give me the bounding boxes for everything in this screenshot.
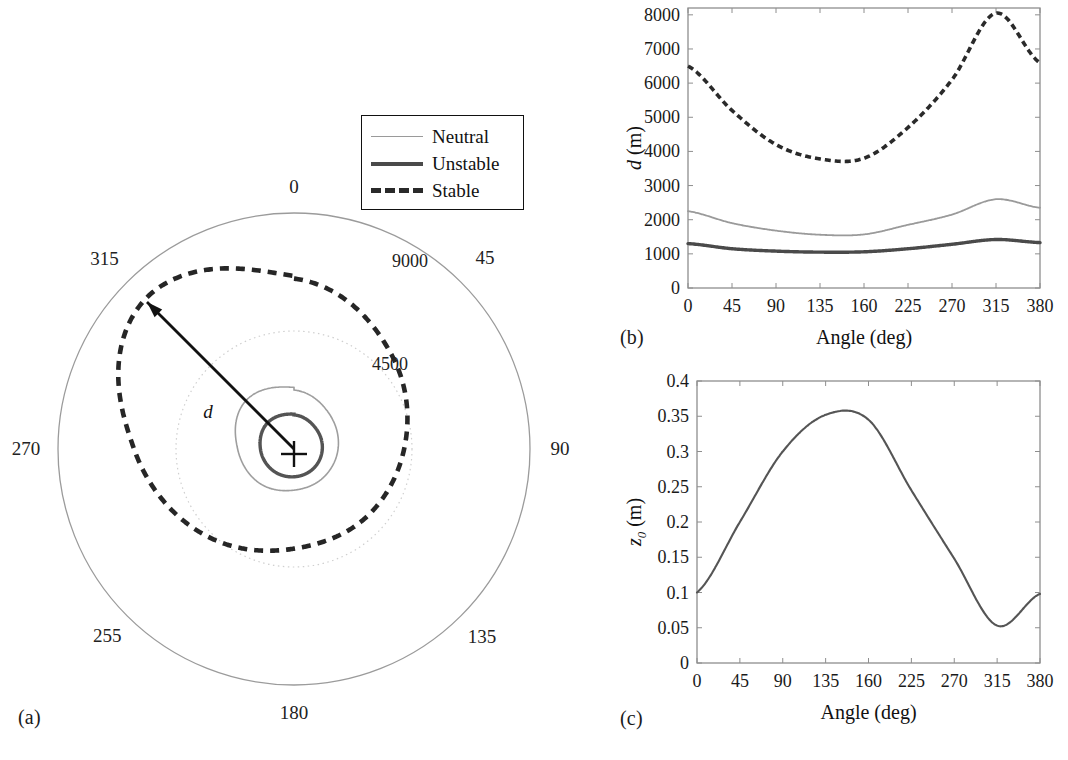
legend-swatch-unstable-icon [371, 158, 423, 170]
xtick-label: 225 [895, 296, 922, 317]
figure-root: (a) 0459013518025527031545009000d Neutra… [0, 0, 1068, 760]
ytick-label: 0 [680, 653, 689, 674]
ytick-label: 4000 [644, 141, 680, 162]
xtick-label: 315 [983, 296, 1010, 317]
legend-item-unstable: Unstable [371, 150, 514, 177]
ytick-label: 0.2 [667, 512, 690, 533]
xtick-label: 45 [731, 671, 749, 692]
polar-angle-label-315: 315 [90, 248, 119, 270]
ytick-label: 2000 [644, 209, 680, 230]
polar-radial-label-9000: 9000 [392, 251, 428, 272]
polar-angle-label-255: 255 [93, 625, 122, 647]
polar-radial-label-4500: 4500 [372, 354, 408, 375]
polar-curve-stable [118, 268, 407, 550]
xaxis-title: Angle (deg) [820, 701, 916, 724]
ytick-label: 0.4 [667, 371, 690, 392]
polar-distance-arrow [147, 302, 294, 449]
plot-frame [688, 8, 1040, 288]
xtick-label: 380 [1027, 296, 1054, 317]
ytick-label: 3000 [644, 175, 680, 196]
xtick-label: 90 [767, 296, 785, 317]
ytick-label: 6000 [644, 73, 680, 94]
xtick-label: 0 [693, 671, 702, 692]
xtick-label: 45 [723, 296, 741, 317]
legend-item-stable: Stable [371, 177, 514, 204]
yaxis-title: d (m) [623, 126, 646, 170]
xtick-label: 135 [807, 296, 834, 317]
panel-label-c: (c) [620, 707, 643, 730]
ytick-label: 1000 [644, 243, 680, 264]
series-line-stable [688, 13, 1040, 161]
polar-angle-label-270: 270 [12, 438, 41, 460]
xtick-label: 135 [812, 671, 839, 692]
polar-angle-label-135: 135 [468, 626, 497, 648]
polar-angle-label-90: 90 [551, 438, 570, 460]
legend-label-unstable: Unstable [432, 154, 500, 173]
xtick-label: 160 [851, 296, 878, 317]
panel-a-polar-plot: (a) 0459013518025527031545009000d [0, 0, 620, 760]
legend-swatch-neutral-icon [371, 131, 423, 143]
polar-angle-label-45: 45 [475, 247, 494, 269]
ytick-label: 5000 [644, 107, 680, 128]
xaxis-title: Angle (deg) [816, 326, 912, 349]
legend-label-stable: Stable [432, 181, 480, 200]
legend-box: Neutral Unstable Stable [361, 115, 524, 210]
xtick-label: 270 [941, 671, 968, 692]
ytick-label: 0 [671, 278, 680, 299]
panel-b-line-chart: (b) 010002000300040005000600070008000045… [620, 0, 1068, 370]
legend-swatch-stable-icon [371, 185, 423, 197]
xtick-label: 160 [855, 671, 882, 692]
ytick-label: 0.05 [658, 617, 690, 638]
xtick-label: 225 [898, 671, 925, 692]
ytick-label: 7000 [644, 38, 680, 59]
ytick-label: 0.35 [658, 406, 690, 427]
ytick-label: 0.25 [658, 476, 690, 497]
polar-angle-label-0: 0 [289, 176, 299, 198]
legend-item-neutral: Neutral [371, 123, 514, 150]
panel-label-b: (b) [620, 326, 644, 349]
polar-angle-label-180: 180 [280, 702, 309, 724]
yaxis-title: z0 (m) [623, 498, 650, 546]
series-line-neutral [688, 199, 1040, 235]
ytick-label: 0.15 [658, 547, 690, 568]
xtick-label: 315 [984, 671, 1011, 692]
polar-center-marker [281, 441, 307, 467]
ytick-label: 0.1 [667, 582, 690, 603]
panel-label-a: (a) [18, 706, 41, 729]
series-line-unstable [688, 239, 1040, 252]
legend-label-neutral: Neutral [432, 127, 489, 146]
series-line-z0 [697, 411, 1040, 627]
ytick-label: 0.3 [667, 441, 690, 462]
xtick-label: 90 [774, 671, 792, 692]
xtick-label: 380 [1027, 671, 1054, 692]
axis-ticks [697, 381, 1040, 663]
ytick-label: 8000 [644, 4, 680, 25]
panel-c-line-chart: (c) 00.050.10.150.20.250.30.350.40459013… [620, 360, 1068, 760]
xtick-label: 270 [939, 296, 966, 317]
xtick-label: 0 [684, 296, 693, 317]
plot-frame [697, 381, 1040, 663]
axis-ticks [688, 8, 1040, 288]
polar-distance-label: d [203, 401, 213, 423]
